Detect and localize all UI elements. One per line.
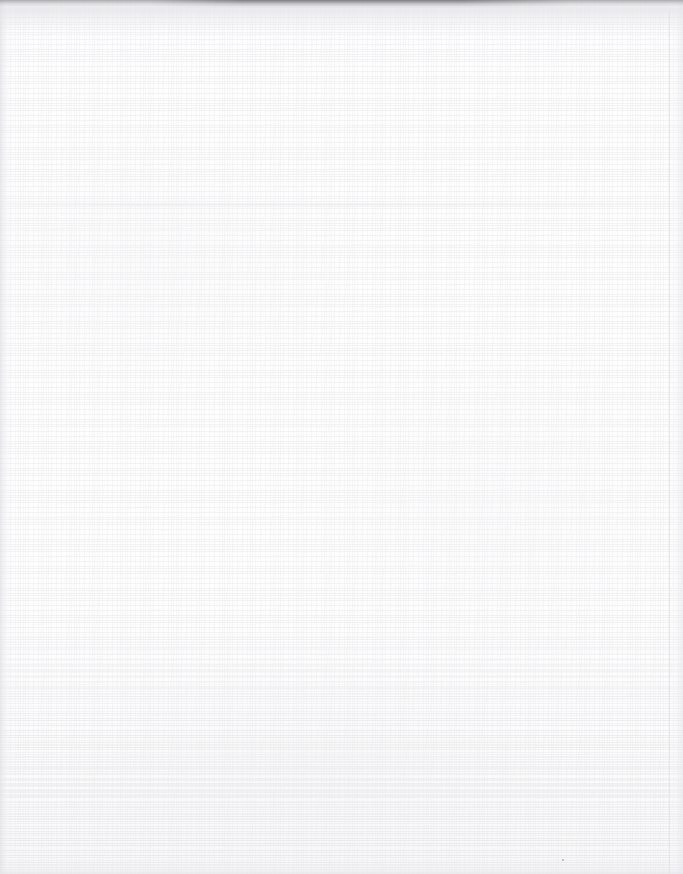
page-content-area bbox=[0, 0, 683, 874]
scanned-page bbox=[0, 0, 683, 874]
